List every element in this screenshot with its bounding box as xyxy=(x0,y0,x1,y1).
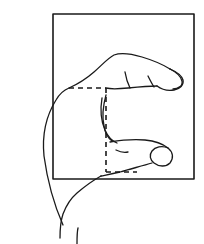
hand-measuring-rectangle-drawing xyxy=(0,0,204,244)
illustration-canvas: Hand measuring a rectangular object Line… xyxy=(0,0,204,244)
